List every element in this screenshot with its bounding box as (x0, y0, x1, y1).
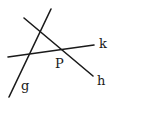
label-h: h (97, 73, 106, 88)
geometry-diagram: k h P g (0, 0, 159, 115)
label-P: P (55, 56, 64, 71)
label-g: g (21, 78, 29, 93)
label-k: k (99, 36, 107, 51)
line-k (8, 45, 94, 57)
